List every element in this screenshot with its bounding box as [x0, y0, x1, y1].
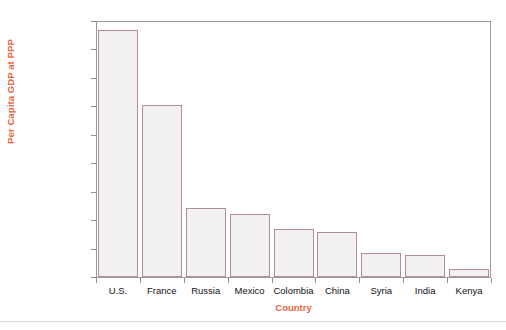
bar [230, 214, 270, 277]
x-axis-tick-label: China [315, 285, 359, 296]
x-axis-tick-mark [184, 278, 185, 283]
y-axis-tick-mark [91, 21, 96, 22]
y-axis-tick-mark [91, 49, 96, 50]
x-axis-tick-label: India [403, 285, 447, 296]
bar [274, 229, 314, 277]
x-axis-tick-mark [96, 278, 97, 283]
bar [317, 232, 357, 277]
x-axis-tick-mark [315, 278, 316, 283]
bar [98, 30, 138, 277]
x-axis-tick-label: France [140, 285, 184, 296]
bar [405, 255, 445, 277]
bar-chart-figure: Per Capita GDP at PPP Country 05,00010,0… [0, 0, 506, 330]
x-axis-tick-label: Colombia [272, 285, 316, 296]
x-axis-tick-mark [140, 278, 141, 283]
x-axis-tick-label: Syria [359, 285, 403, 296]
y-axis-tick-mark [91, 192, 96, 193]
x-axis-tick-mark [228, 278, 229, 283]
x-axis-tick-label: U.S. [96, 285, 140, 296]
y-axis-tick-mark [91, 135, 96, 136]
x-axis-tick-mark [403, 278, 404, 283]
y-axis-title: Per Capita GDP at PPP [5, 27, 16, 157]
bar [361, 253, 401, 277]
y-axis-tick-mark [91, 106, 96, 107]
x-axis-tick-label: Mexico [228, 285, 272, 296]
y-axis-tick-mark [91, 163, 96, 164]
page-rule-divider [0, 321, 506, 322]
x-axis-tick-label: Russia [184, 285, 228, 296]
x-axis-title: Country [96, 302, 491, 313]
y-axis-tick-mark [91, 220, 96, 221]
bar [186, 208, 226, 277]
bar [449, 269, 489, 277]
y-axis-tick-mark [91, 249, 96, 250]
bar [142, 105, 182, 277]
x-axis-tick-mark [359, 278, 360, 283]
x-axis-tick-mark [447, 278, 448, 283]
y-axis-tick-mark [91, 78, 96, 79]
x-axis-tick-mark [272, 278, 273, 283]
x-axis-tick-label: Kenya [447, 285, 491, 296]
x-axis-tick-mark [491, 278, 492, 283]
